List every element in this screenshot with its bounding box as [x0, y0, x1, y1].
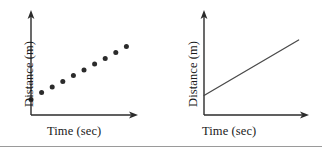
trend-line [204, 40, 299, 96]
x-axis-label: Time (sec) [47, 124, 101, 139]
scatter-plot-panel: Time (sec) Distance (m) [0, 0, 161, 148]
y-axis-label: Distance (m) [186, 41, 201, 107]
scatter-point [60, 79, 65, 84]
line-plot-panel: Time (sec) Distance (m) [161, 0, 322, 148]
scatter-point [103, 56, 108, 61]
scatter-point [124, 44, 129, 49]
scatter-point [50, 85, 55, 90]
bottom-divider [0, 146, 322, 147]
scatter-point [39, 90, 44, 95]
scatter-point-group [29, 44, 129, 102]
scatter-point [92, 62, 97, 67]
scatter-point [113, 50, 118, 55]
y-axis-label: Distance (m) [22, 41, 37, 107]
x-axis-label: Time (sec) [202, 124, 256, 139]
scatter-point [82, 68, 87, 73]
scatter-point [71, 73, 76, 78]
figure-root: Time (sec) Distance (m) Time (sec) Dista… [0, 0, 322, 148]
